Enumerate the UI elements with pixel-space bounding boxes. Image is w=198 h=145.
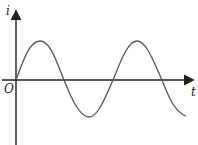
- sine-curve: [16, 41, 186, 117]
- origin-label: O: [4, 82, 14, 96]
- sine-graph: i O t: [0, 0, 198, 145]
- x-axis-label: t: [191, 85, 196, 99]
- y-axis-label: i: [6, 4, 10, 18]
